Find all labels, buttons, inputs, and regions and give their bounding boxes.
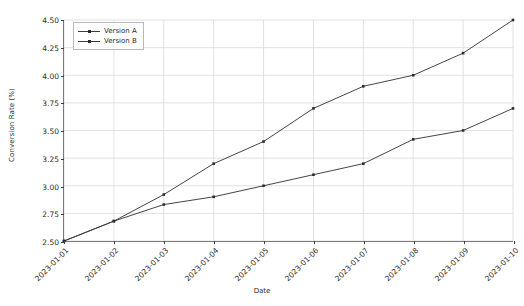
x-axis-tick-label: 2023-01-05 (233, 246, 270, 283)
x-axis-tick-label: 2023-01-01 (33, 246, 70, 283)
x-axis-tick-mark (414, 241, 415, 244)
legend-item-label: Version B (104, 37, 137, 45)
x-axis-tick-label: 2023-01-04 (183, 246, 220, 283)
plot-area: 2.502.753.003.253.503.754.004.254.50 202… (63, 20, 513, 242)
x-axis-tick-mark (164, 241, 165, 244)
y-axis-tick-mark (61, 76, 64, 77)
data-point-marker (412, 138, 415, 141)
data-point-marker (362, 162, 365, 165)
data-point-marker (212, 162, 215, 165)
y-axis-tick-label: 2.75 (42, 210, 59, 219)
y-axis-tick-label: 4.00 (42, 71, 59, 80)
legend-line-swatch (78, 36, 100, 46)
y-axis-tick-label: 3.50 (42, 127, 59, 136)
data-point-marker (412, 74, 415, 77)
series-line-version-a (64, 108, 513, 241)
data-point-marker (462, 129, 465, 132)
x-axis-tick-mark (464, 241, 465, 244)
y-axis-title-text: Conversion Rate (%) (8, 88, 16, 162)
data-point-marker (312, 173, 315, 176)
data-point-marker (462, 52, 465, 55)
data-point-marker (113, 220, 116, 223)
y-axis-tick-label: 3.25 (42, 154, 59, 163)
x-axis-tick-mark (314, 241, 315, 244)
y-axis-tick-label: 2.50 (42, 238, 59, 247)
series-line-version-b (64, 20, 513, 241)
y-axis-tick-mark (61, 214, 64, 215)
x-axis-tick-mark (264, 241, 265, 244)
x-axis-tick-label: 2023-01-10 (483, 246, 520, 283)
y-axis-tick-label: 4.25 (42, 43, 59, 52)
chart-figure: Conversion Rate (%) 2.502.753.003.253.50… (0, 0, 524, 306)
y-axis-tick-mark (61, 159, 64, 160)
x-axis-tick-label: 2023-01-02 (83, 246, 120, 283)
data-point-marker (512, 107, 515, 110)
y-axis-tick-label: 3.00 (42, 182, 59, 191)
y-axis-tick-mark (61, 48, 64, 49)
data-point-marker (512, 19, 515, 22)
x-axis-title: Date (0, 287, 524, 295)
y-axis-tick-mark (61, 20, 64, 21)
y-axis-tick-label: 3.75 (42, 99, 59, 108)
x-axis-tick-mark (514, 241, 515, 244)
data-point-marker (212, 196, 215, 199)
x-axis-tick-label: 2023-01-03 (133, 246, 170, 283)
y-axis-tick-label: 4.50 (42, 16, 59, 25)
x-axis-tick-mark (114, 241, 115, 244)
legend-marker-icon (88, 40, 91, 43)
legend-marker-icon (88, 30, 91, 33)
x-axis-tick-label: 2023-01-08 (383, 246, 420, 283)
chart-legend: Version AVersion B (73, 22, 144, 50)
legend-line-swatch (78, 26, 100, 36)
legend-item-label: Version A (104, 27, 137, 35)
data-point-marker (262, 184, 265, 187)
y-axis-tick-mark (61, 187, 64, 188)
data-layer (64, 20, 513, 241)
data-point-marker (362, 85, 365, 88)
x-axis-tick-label: 2023-01-06 (283, 246, 320, 283)
data-point-marker (162, 203, 165, 206)
x-axis-tick-label: 2023-01-09 (433, 246, 470, 283)
y-axis-tick-mark (61, 103, 64, 104)
x-axis-tick-label: 2023-01-07 (333, 246, 370, 283)
x-axis-tick-mark (64, 241, 65, 244)
y-axis-title: Conversion Rate (%) (2, 0, 22, 250)
x-axis-title-text: Date (254, 287, 271, 295)
data-point-marker (262, 140, 265, 143)
data-point-marker (312, 107, 315, 110)
y-axis-tick-mark (61, 131, 64, 132)
x-axis-tick-mark (214, 241, 215, 244)
legend-item-version-a[interactable]: Version A (78, 26, 137, 36)
data-point-marker (162, 193, 165, 196)
legend-item-version-b[interactable]: Version B (78, 36, 137, 46)
x-axis-tick-mark (364, 241, 365, 244)
